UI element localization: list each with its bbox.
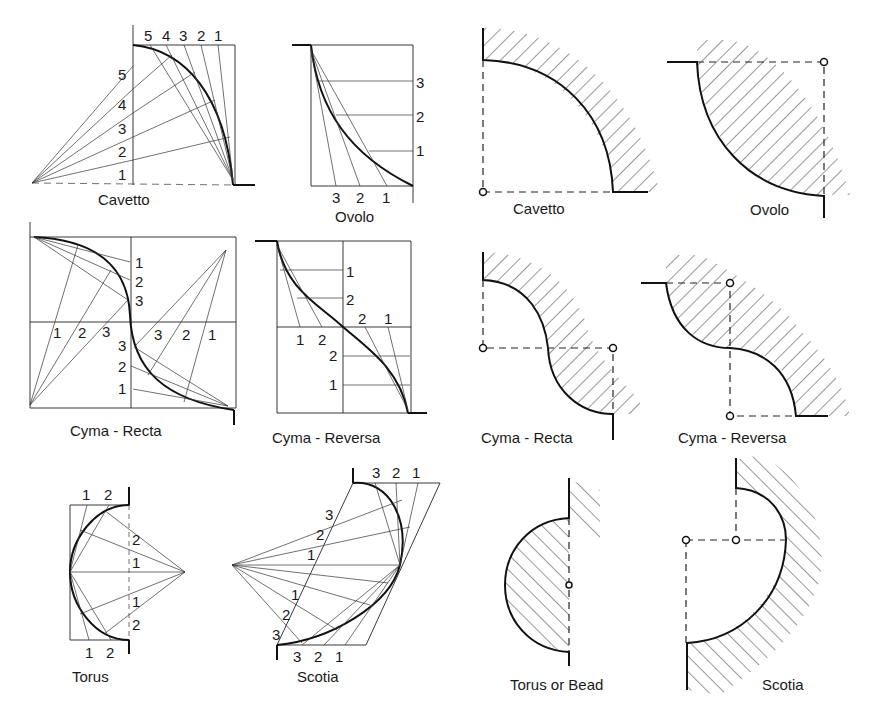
cyma-reversa-center-point-1 [727, 280, 734, 287]
cyma-recta-lower-div-1: 1 [118, 380, 126, 397]
cyma-recta-mid-left-1: 1 [53, 324, 61, 341]
ovolo-center-point [821, 59, 828, 66]
cavetto-side-div-1: 1 [118, 166, 126, 183]
cyma-reversa-mid-right-1: 1 [384, 310, 392, 327]
cavetto-side-div-2: 2 [118, 143, 126, 160]
torus-bottom-div-2: 2 [106, 644, 114, 661]
torus-profile: Torus or Bead [505, 478, 603, 693]
cavetto-profile: Cavetto [480, 28, 661, 217]
cyma-recta-upper-div-3: 3 [135, 292, 143, 309]
cyma-reversa-profile-label: Cyma - Reversa [678, 429, 787, 446]
scotia-center-point-2 [733, 537, 740, 544]
ovolo-profile-label: Ovolo [750, 201, 789, 218]
scotia-diag-upper-3: 3 [325, 506, 333, 523]
cyma-recta-center-point-1 [480, 345, 487, 352]
torus-side-div-2a: 2 [132, 531, 140, 548]
ovolo-construction-label: Ovolo [335, 208, 374, 225]
scotia-profile: Scotia [683, 455, 822, 695]
scotia-profile-label: Scotia [762, 676, 804, 693]
cyma-recta-construction-label: Cyma - Recta [70, 422, 162, 439]
scotia-bottom-div-1: 1 [335, 648, 343, 665]
ovolo-bottom-div-1: 1 [382, 189, 390, 206]
torus-side-div-1b: 1 [132, 593, 140, 610]
torus-side-div-1a: 1 [132, 554, 140, 571]
cyma-recta-center-point-2 [610, 345, 617, 352]
cavetto-top-div-1: 1 [214, 27, 222, 44]
scotia-center-point-1 [683, 537, 690, 544]
ovolo-bottom-div-2: 2 [356, 189, 364, 206]
cyma-reversa-upper-div-1: 1 [346, 263, 354, 280]
cyma-reversa-construction: 1 2 2 1 1 2 2 1 Cyma - Reversa [255, 241, 427, 446]
cavetto-construction: 5 4 3 2 1 5 4 3 2 1 Cavetto [32, 25, 255, 208]
cyma-recta-mid-left-2: 2 [78, 324, 86, 341]
torus-side-div-2b: 2 [132, 616, 140, 633]
cyma-reversa-profile: Cyma - Reversa [641, 255, 850, 446]
cavetto-top-div-4: 4 [162, 27, 170, 44]
scotia-diag-upper-1: 1 [307, 546, 315, 563]
torus-construction: 1 2 2 1 1 2 1 2 Torus [70, 486, 185, 685]
cyma-reversa-construction-label: Cyma - Reversa [272, 429, 381, 446]
cyma-recta-mid-left-3: 3 [102, 323, 110, 340]
cavetto-construction-label: Cavetto [98, 191, 150, 208]
cavetto-side-div-3: 3 [118, 120, 126, 137]
scotia-bottom-div-3: 3 [293, 648, 301, 665]
scotia-bottom-div-2: 2 [314, 648, 322, 665]
torus-construction-label: Torus [72, 668, 109, 685]
cyma-recta-mid-right-3: 3 [154, 326, 162, 343]
torus-top-div-1: 1 [82, 486, 90, 503]
cyma-reversa-lower-div-1: 1 [329, 376, 337, 393]
cyma-recta-upper-div-1: 1 [135, 254, 143, 271]
scotia-top-div-2: 2 [392, 464, 400, 481]
mouldings-diagram: 5 4 3 2 1 5 4 3 2 1 Cavetto 3 2 1 3 2 1 … [0, 0, 874, 716]
cavetto-top-div-3: 3 [179, 27, 187, 44]
cyma-recta-upper-div-2: 2 [135, 273, 143, 290]
cyma-reversa-mid-right-2: 2 [358, 310, 366, 327]
ovolo-side-div-1: 1 [416, 142, 424, 159]
torus-profile-label: Torus or Bead [510, 676, 603, 693]
cyma-reversa-center-point-2 [727, 413, 734, 420]
scotia-diag-lower-1: 1 [291, 586, 299, 603]
cyma-recta-lower-div-2: 2 [118, 358, 126, 375]
cyma-recta-mid-right-1: 1 [208, 326, 216, 343]
torus-bottom-div-1: 1 [85, 644, 93, 661]
scotia-top-div-3: 3 [372, 464, 380, 481]
ovolo-construction: 3 2 1 3 2 1 Ovolo [292, 45, 424, 225]
cyma-recta-lower-div-3: 3 [118, 337, 126, 354]
scotia-diag-upper-2: 2 [316, 526, 324, 543]
torus-top-div-2: 2 [104, 486, 112, 503]
cyma-reversa-mid-left-2: 2 [318, 331, 326, 348]
cyma-recta-profile-label: Cyma - Recta [481, 429, 573, 446]
cavetto-top-div-2: 2 [197, 27, 205, 44]
cyma-recta-mid-right-2: 2 [182, 326, 190, 343]
scotia-diag-lower-2: 2 [282, 606, 290, 623]
cyma-recta-construction: 1 2 3 1 2 3 3 2 1 3 2 1 Cyma - Recta [30, 222, 236, 439]
cavetto-side-div-4: 4 [118, 96, 126, 113]
cyma-recta-profile: Cyma - Recta [480, 252, 641, 446]
ovolo-side-div-3: 3 [416, 74, 424, 91]
ovolo-profile: Ovolo [667, 40, 850, 218]
torus-center-point [566, 582, 572, 588]
cyma-reversa-upper-div-2: 2 [346, 291, 354, 308]
cavetto-side-div-5: 5 [118, 66, 126, 83]
cavetto-profile-label: Cavetto [513, 200, 565, 217]
ovolo-side-div-2: 2 [416, 108, 424, 125]
cavetto-center-point [480, 189, 487, 196]
ovolo-bottom-div-3: 3 [332, 189, 340, 206]
cyma-reversa-mid-left-1: 1 [296, 331, 304, 348]
scotia-construction: 3 2 1 3 2 1 1 2 3 3 2 1 Scotia [232, 464, 440, 685]
cyma-reversa-lower-div-2: 2 [329, 347, 337, 364]
scotia-diag-lower-3: 3 [272, 626, 280, 643]
cavetto-top-div-5: 5 [144, 27, 152, 44]
scotia-top-div-1: 1 [412, 464, 420, 481]
scotia-construction-label: Scotia [297, 668, 339, 685]
